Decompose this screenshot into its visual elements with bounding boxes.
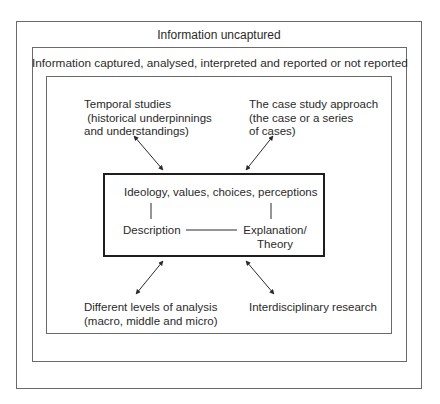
node-levels-of-analysis: Different levels of analysis (macro, mid… bbox=[84, 301, 218, 328]
middle-label: Information captured, analysed, interpre… bbox=[32, 57, 407, 71]
core-ideology-label: Ideology, values, choices, perceptions bbox=[124, 186, 317, 200]
node-temporal-studies: Temporal studies (historical underpinnin… bbox=[84, 98, 212, 139]
core-explanation-theory-label: Explanation/ Theory bbox=[239, 224, 311, 251]
node-interdisciplinary-research: Interdisciplinary research bbox=[249, 301, 377, 315]
node-case-study-approach: The case study approach (the case or a s… bbox=[249, 98, 378, 139]
core-description-label: Description bbox=[123, 224, 181, 238]
outer-label: Information uncaptured bbox=[16, 29, 422, 43]
